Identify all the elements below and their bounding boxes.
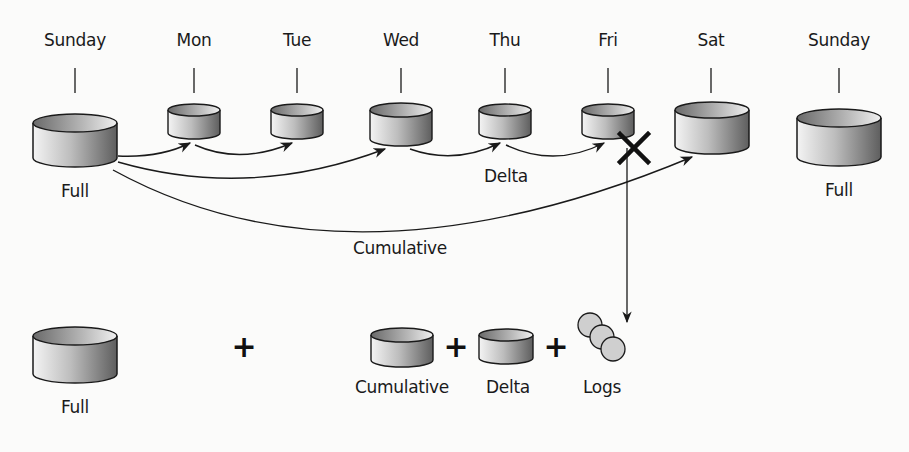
day-label-mon: Mon: [177, 30, 212, 50]
day-label-tue: Tue: [283, 30, 311, 50]
label-full-right: Full: [825, 180, 853, 200]
restore-label-delta: Delta: [486, 377, 530, 397]
delta-arrows: [118, 143, 604, 156]
label-full-left: Full: [61, 181, 89, 201]
restore-disk-cumulative: [371, 328, 433, 367]
cumulative-arrows: [113, 149, 692, 232]
label-delta: Delta: [484, 166, 528, 186]
plus-icon: +: [231, 332, 256, 362]
diagram-canvas: [0, 0, 909, 452]
restore-label-full: Full: [61, 397, 89, 417]
restore-label-cumulative: Cumulative: [355, 377, 449, 397]
day-label-sunday-next: Sunday: [808, 30, 870, 50]
restore-disk-delta: [479, 329, 533, 364]
day-label-fri: Fri: [598, 30, 617, 50]
day-label-sunday: Sunday: [44, 30, 106, 50]
label-cumulative: Cumulative: [353, 238, 447, 258]
disk-sunday-full-next: [797, 109, 881, 166]
disk-thu-delta: [479, 104, 531, 139]
disk-sat-cumulative: [675, 102, 749, 154]
disk-mon-delta: [168, 104, 220, 139]
failure-x-icon: [620, 134, 648, 162]
disk-fri-delta: [582, 104, 634, 139]
backup-strategy-diagram: Sunday Mon Tue Wed Thu Fri Sat Sunday Fu…: [0, 0, 909, 452]
plus-icon: +: [443, 332, 468, 362]
disk-wed-cumulative: [370, 103, 432, 146]
restore-label-logs: Logs: [583, 377, 621, 397]
disk-tue-delta: [271, 104, 323, 139]
restore-disk-full: [33, 327, 117, 383]
disk-sunday-full: [33, 114, 117, 167]
day-label-sat: Sat: [698, 30, 725, 50]
day-ticks: [75, 68, 839, 93]
plus-icon: +: [543, 332, 568, 362]
logs-icon: [578, 313, 625, 361]
day-label-wed: Wed: [383, 30, 419, 50]
day-label-thu: Thu: [489, 30, 520, 50]
